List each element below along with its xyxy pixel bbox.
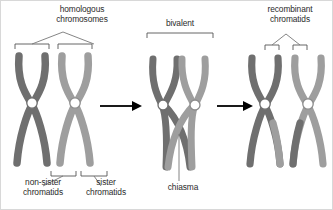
meiosis-crossing-over-diagram: homologous chromosomes bivalent recombin… xyxy=(0,0,333,210)
label-chiasma: chiasma xyxy=(151,183,215,193)
leader-homologous xyxy=(32,32,94,44)
chromatid-arm xyxy=(153,59,167,167)
stage-2-bivalent xyxy=(147,33,213,181)
arrow-stage2-to-stage3 xyxy=(217,101,253,111)
centromere xyxy=(190,100,200,110)
arrow-stage1-to-stage2 xyxy=(100,101,142,111)
label-recombinant-line2: chromatids xyxy=(249,15,331,25)
chromatid-arm xyxy=(191,59,205,167)
label-non-sister-chromatids: non-sister chromatids xyxy=(9,178,77,197)
maternal-chromosome-recombined xyxy=(250,58,280,164)
centromere xyxy=(303,99,313,109)
leader-recombinant xyxy=(272,34,300,45)
paternal-chromosome-recombined xyxy=(293,58,323,164)
bracket-non-sister xyxy=(51,171,76,176)
label-sister-chromatids: sister chromatids xyxy=(75,178,137,197)
centromere xyxy=(70,98,80,108)
paternal-chromosome-light xyxy=(60,56,90,163)
bracket-maternal xyxy=(15,44,49,49)
bracket-paternal xyxy=(58,44,92,49)
label-non-sister-line2: chromatids xyxy=(9,188,77,198)
bracket-sister xyxy=(81,171,107,176)
recombinant-segment xyxy=(273,123,280,164)
recombinant-segment xyxy=(293,123,300,164)
centromere xyxy=(260,99,270,109)
label-bivalent: bivalent xyxy=(141,19,219,29)
label-recombinant-chromatids: recombinant chromatids xyxy=(249,5,331,24)
maternal-chromosome-dark xyxy=(17,56,47,163)
stage-3-recombinant xyxy=(250,34,323,164)
label-homologous-chromosomes: homologous chromosomes xyxy=(23,5,141,24)
label-chiasma-text: chiasma xyxy=(151,183,215,193)
bracket-bivalent xyxy=(147,33,213,38)
centromere xyxy=(27,98,37,108)
label-sister-line2: chromatids xyxy=(75,188,137,198)
bracket-recombinant-right xyxy=(293,45,307,50)
centromere xyxy=(158,100,168,110)
stage-1-homologous-chromosomes xyxy=(15,32,107,186)
label-homologous-line2: chromosomes xyxy=(23,15,141,25)
label-bivalent-text: bivalent xyxy=(141,19,219,29)
bracket-recombinant-left xyxy=(265,45,279,50)
